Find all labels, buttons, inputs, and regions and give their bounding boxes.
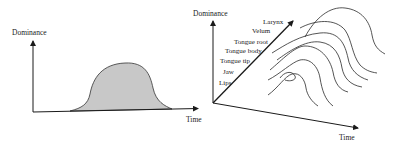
right-y-axis-label: Dominance [193, 10, 228, 18]
left-x-axis-label: Time [186, 116, 202, 124]
curve-lips [268, 74, 318, 106]
right-x-axis-label: Time [339, 134, 355, 142]
articulator-curves [268, 8, 385, 106]
articulator-label-lips: Lips [219, 80, 231, 87]
articulator-label-tongue-root: Tongue root [234, 39, 268, 46]
curve-tongue-tip [270, 46, 348, 92]
articulator-label-larynx: Larynx [263, 19, 283, 26]
articulator-label-jaw: Jaw [223, 69, 234, 76]
articulator-label-tongue-body: Tongue body [225, 48, 262, 55]
curve-velum [300, 22, 377, 74]
articulator-label-tongue-tip: Tongue tip [220, 58, 250, 65]
right-time-axis [213, 103, 358, 128]
diagram-canvas [0, 0, 399, 149]
left-y-axis-label: Dominance [12, 29, 47, 37]
articulator-label-velum: Velum [252, 28, 270, 35]
right-dominance-chart [213, 8, 385, 128]
curve-tongue-body [277, 42, 362, 87]
left-dominance-chart [33, 41, 198, 112]
curve-jaw [268, 60, 333, 106]
dominance-hump [70, 63, 172, 111]
